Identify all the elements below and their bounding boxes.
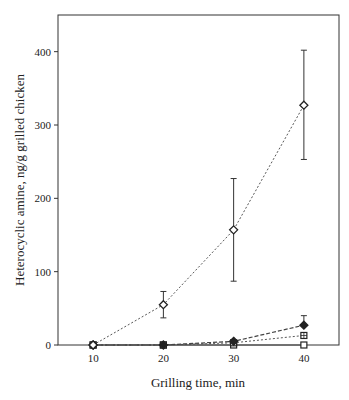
- y-tick-label: 400: [35, 46, 52, 58]
- x-tick-label: 20: [158, 352, 170, 364]
- chart: 0100200300400 10203040 Grilling time, mi…: [0, 0, 349, 400]
- y-tick-label: 200: [35, 192, 52, 204]
- y-axis-ticks: 0100200300400: [35, 46, 59, 351]
- plot-frame: [58, 15, 339, 345]
- series-line: [93, 105, 304, 345]
- x-axis-label: Grilling time, min: [151, 375, 246, 390]
- series-line: [93, 325, 304, 345]
- x-tick-label: 40: [298, 352, 310, 364]
- y-tick-label: 300: [35, 119, 52, 131]
- y-axis-label: Heterocyclic amine, ng/g grilled chicken: [12, 74, 27, 286]
- data-point-marker: [301, 342, 307, 348]
- x-axis-ticks: 10203040: [88, 345, 310, 364]
- y-tick-label: 0: [46, 339, 52, 351]
- data-point-marker: [230, 226, 238, 234]
- x-tick-label: 10: [88, 352, 100, 364]
- data-point-marker: [300, 321, 308, 329]
- x-tick-label: 30: [228, 352, 240, 364]
- y-tick-label: 100: [35, 266, 52, 278]
- data-series: [89, 50, 308, 349]
- data-point-marker: [300, 101, 308, 109]
